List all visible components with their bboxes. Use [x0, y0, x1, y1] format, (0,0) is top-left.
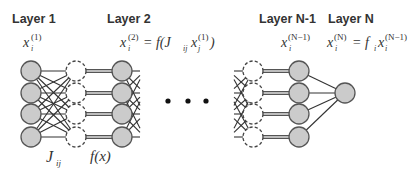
weights-sub: ij [56, 158, 62, 168]
eq-lhs: = f(J [143, 35, 171, 51]
layer-n-1-presynaptic-node [243, 127, 263, 147]
layer-1-presynaptic-node [66, 104, 86, 124]
eq-var-sup: (N−1) [385, 32, 407, 42]
layer-2-node [112, 61, 132, 81]
layer-2-node [112, 83, 132, 103]
var-sub: i [31, 44, 33, 53]
var-sub: i [128, 44, 130, 53]
var-sup: (N−1) [288, 32, 310, 42]
eq-sub: i [374, 44, 376, 53]
var-sup: (N) [334, 32, 347, 42]
var-sup: (2) [128, 32, 139, 42]
layer-2-node [112, 127, 132, 147]
weights-base: J [46, 148, 54, 165]
layer-1-node [21, 127, 41, 147]
eq-var-base: x [190, 35, 198, 50]
layer-n-1-node [289, 83, 309, 103]
var-sub: i [335, 44, 337, 53]
layer-n-1-node [289, 127, 309, 147]
layer-1-presynaptic-node [66, 61, 86, 81]
eq-close: ) [209, 35, 215, 51]
layer-n-1-presynaptic-node [243, 61, 263, 81]
layer-2-equation: x i (2) = f(J ij x j (1) ) [119, 32, 215, 53]
layer-n-equation: x i (N) = f i x i (N−1) [326, 32, 407, 53]
neural-network-diagram: Layer 1 Layer 2 Layer N-1 Layer N x i (1… [0, 0, 417, 171]
ellipsis-dot [185, 98, 190, 103]
layer-n-1-variable: x i (N−1) [280, 32, 310, 53]
layer-1-presynaptic-node [66, 83, 86, 103]
layer-n-1-presynaptic-node [243, 104, 263, 124]
layer-n-1-title: Layer N-1 [259, 12, 316, 26]
eq-var-base: x [377, 35, 385, 50]
layer-n-1-presynaptic-node [243, 83, 263, 103]
ellipsis-dot [165, 98, 170, 103]
var-base: x [326, 35, 334, 50]
layer-n-1-node [289, 61, 309, 81]
ellipsis-dot [203, 98, 208, 103]
layer-n-title: Layer N [328, 12, 374, 26]
eq-var-sub: i [385, 44, 387, 53]
var-base: x [119, 35, 127, 50]
activation-connections [76, 71, 299, 137]
layer-n-1-node [289, 104, 309, 124]
ellipsis-dots [165, 98, 208, 103]
var-base: x [280, 35, 288, 50]
layer-1-variable: x i (1) [22, 32, 42, 53]
eq-sub: ij [183, 44, 188, 53]
eq-var-sub: j [197, 44, 201, 53]
var-sup: (1) [31, 32, 42, 42]
layer-2-node [112, 104, 132, 124]
activation-label: f(x) [90, 148, 111, 165]
var-base: x [22, 35, 30, 50]
weights-label: J ij [46, 148, 62, 168]
layer-n-output-node [335, 83, 355, 103]
layer-1-node [21, 104, 41, 124]
eq-var-sup: (1) [198, 32, 209, 42]
layer-1-node [21, 83, 41, 103]
layer-2-title: Layer 2 [107, 12, 151, 26]
layer-1-title: Layer 1 [12, 12, 56, 26]
layer-1-node [21, 61, 41, 81]
eq-lhs: = f [352, 35, 371, 50]
layer-1-presynaptic-node [66, 127, 86, 147]
var-sub: i [289, 44, 291, 53]
network-nodes [21, 61, 355, 147]
